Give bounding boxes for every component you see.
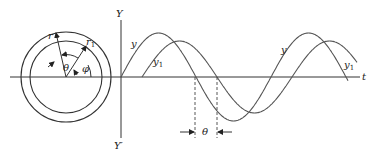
phase-theta-label: θ (202, 126, 208, 137)
phi-pointer-arrow (74, 70, 77, 75)
phase-diagram: r r1 θ φ Y Y′ t y y1 y y1 θ (0, 0, 370, 153)
curve-y1-label-left: y1 (152, 56, 163, 69)
phase-difference-marker: θ (180, 77, 232, 138)
y-axis-group: Y Y′ (114, 8, 124, 151)
phasor-circle-group: r r1 θ φ (10, 30, 121, 122)
theta-arc (62, 55, 78, 58)
phi-label: φ (82, 63, 89, 74)
theta-pointer-arrow (48, 62, 54, 67)
radius-r-label: r (48, 30, 54, 41)
curve-y-label-right: y (280, 44, 287, 55)
y-axis-top-label: Y (116, 8, 124, 19)
y-axis-bottom-label: Y′ (114, 140, 124, 151)
theta-label: θ (63, 62, 69, 73)
t-axis-label: t (362, 71, 367, 82)
radius-r1-label: r1 (86, 36, 95, 49)
curve-y-label-left: y (130, 38, 137, 49)
t-axis-group: t (121, 71, 367, 82)
curve-y1-label-right: y1 (343, 59, 354, 72)
